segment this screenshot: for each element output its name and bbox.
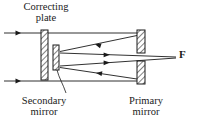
arrowhead-incoming-top-icon: [16, 31, 22, 36]
label-secondary-mirror: Secondary mirror: [2, 95, 86, 118]
arrowhead-reflected-upper-icon: [95, 44, 102, 49]
label-primary-mirror: Primary mirror: [108, 95, 184, 118]
secondary-mirror: [53, 45, 59, 70]
secondary-mirror-leader-line: [57, 70, 66, 93]
arrowhead-incoming-bottom-icon: [16, 79, 22, 84]
correcting-plate: [41, 30, 48, 80]
reflected-ray-upper: [60, 36, 137, 52]
correcting-plate-body: [41, 30, 48, 80]
secondary-ray-lower: [60, 58, 176, 66]
label-focus-point: F: [179, 49, 193, 61]
arrowhead-converging-lower-icon: [104, 60, 110, 65]
leader-curve: [57, 70, 66, 93]
arrowhead-reflected-lower-icon: [96, 71, 102, 76]
secondary-mirror-body: [53, 45, 59, 70]
converging-rays-to-focus: [60, 52, 176, 66]
reflected-rays-from-primary: [60, 36, 137, 80]
optics-figure: Correcting plate Secondary mirror Primar…: [0, 0, 197, 125]
label-correcting-plate: Correcting plate: [9, 1, 83, 24]
primary-mirror: [137, 30, 145, 84]
primary-mirror-upper-segment: [137, 30, 145, 53]
secondary-ray-upper: [60, 53, 176, 57]
arrowhead-converging-upper-icon: [104, 52, 110, 57]
primary-mirror-lower-segment: [137, 61, 145, 84]
